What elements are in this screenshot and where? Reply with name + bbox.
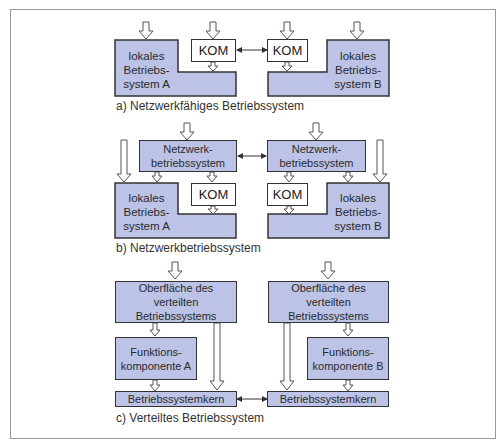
component-a-box: Funktions- komponente A [115, 337, 197, 380]
arrow-icon [343, 172, 353, 182]
kom-a-box: KOM [191, 39, 236, 62]
local-os-b-label: lokales Betriebs- system B [327, 49, 389, 91]
surface-b-box: Oberfläche des verteilten Betriebssystem… [268, 281, 389, 323]
arrow-icon [280, 22, 294, 39]
kom-b-box: KOM [267, 39, 308, 62]
network-os-b-box: Netzwerk- betriebssystem [267, 140, 366, 172]
arrow-icon [180, 123, 194, 140]
arrow-icon [210, 323, 224, 390]
kernel-b-box: Betriebssystemkern [267, 391, 389, 407]
arrow-icon [309, 123, 323, 140]
arrow-icon [208, 62, 218, 71]
arrow-icon [343, 323, 353, 336]
local-os-a-label: lokales Betriebs- system A [115, 49, 178, 91]
arrow-icon [343, 380, 353, 391]
component-b-box: Funktions- komponente B [307, 337, 389, 380]
arrow-icon [207, 172, 217, 182]
arrow-icon [168, 262, 182, 279]
arrow-icon [139, 22, 153, 39]
arrow-icon [284, 172, 294, 182]
arrow-icon [152, 172, 162, 182]
local-os-a-label-b: lokales Betriebs- system A [115, 191, 178, 233]
arrow-icon [282, 62, 292, 71]
arrow-icon [206, 22, 220, 39]
local-os-b-label-b: lokales Betriebs- system B [327, 191, 389, 233]
arrow-icon [373, 140, 387, 182]
arrow-icon [117, 140, 131, 182]
arrow-icon [150, 323, 160, 336]
kernel-a-box: Betriebssystemkern [115, 391, 237, 407]
arrow-icon [208, 206, 218, 214]
arrow-icon [284, 206, 294, 214]
kom-a-box-b: KOM [191, 183, 236, 206]
kom-b-box-b: KOM [267, 183, 308, 206]
caption-b: b) Netzwerkbetriebssystem [116, 241, 261, 255]
arrow-icon [321, 262, 335, 279]
caption-a: a) Netzwerkfähiges Betriebssystem [116, 99, 304, 113]
diagram-shapes [0, 0, 502, 448]
caption-c: c) Verteiltes Betriebssystem [116, 411, 264, 425]
arrow-icon [350, 22, 364, 39]
network-os-a-box: Netzwerk- betriebssystem [139, 140, 237, 172]
arrow-icon [150, 380, 160, 391]
arrow-icon [280, 323, 294, 390]
surface-a-box: Oberfläche des verteilten Betriebssystem… [115, 281, 237, 323]
